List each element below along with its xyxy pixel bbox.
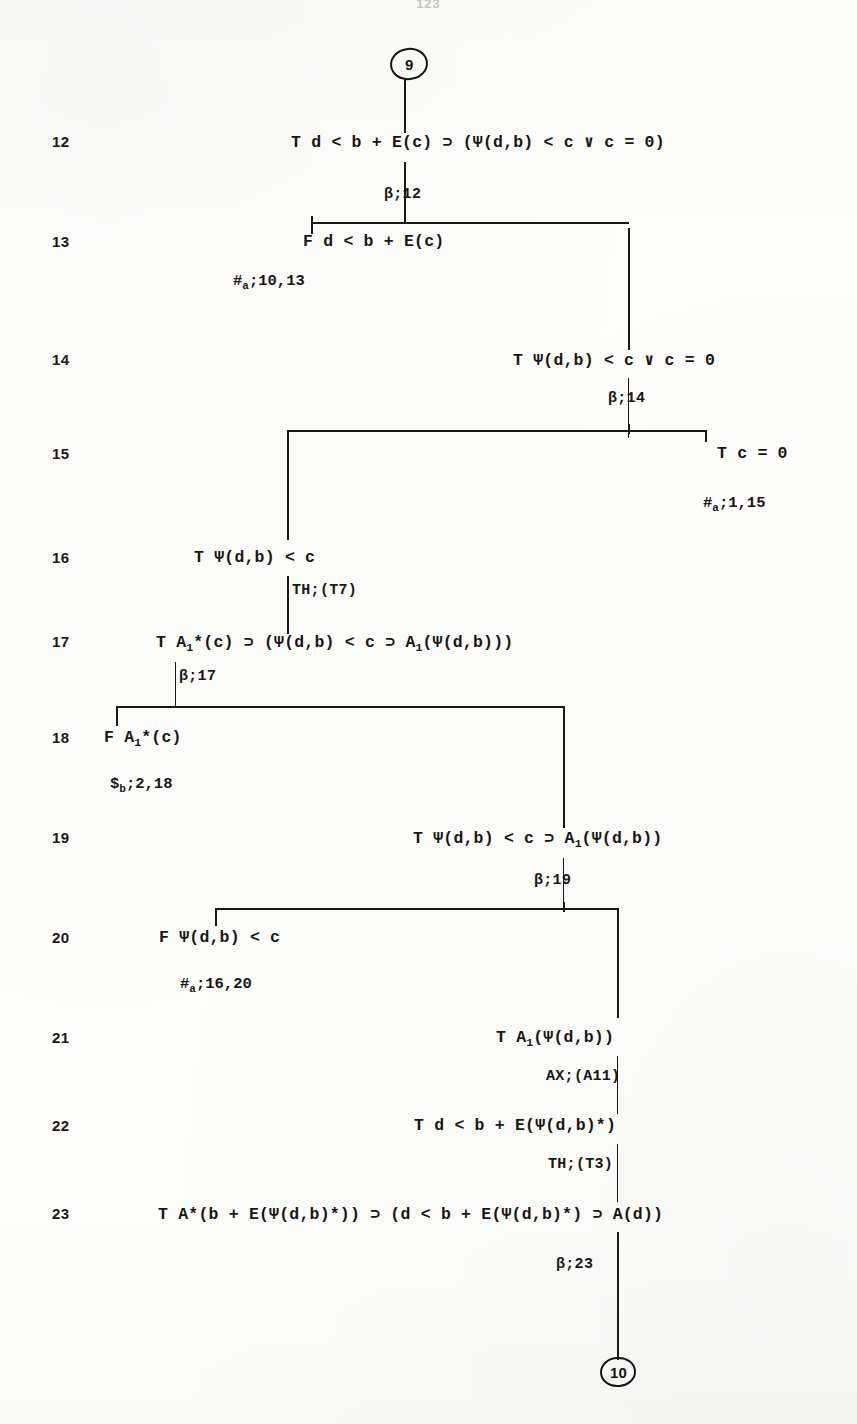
formula-line-15: T c = 0: [717, 444, 788, 463]
tree-node-10-label: 10: [610, 1364, 627, 1381]
closure-sub-13: a: [242, 280, 249, 292]
closure-refs-15: ;1,15: [719, 494, 766, 512]
line-number-16: 16: [52, 549, 70, 566]
formula-line-23: T A*(b + E(Ψ(d,b)*)) ⊃ (d < b + E(Ψ(d,b)…: [158, 1204, 663, 1224]
closure-refs-20: ;16,20: [196, 975, 252, 993]
line-number-18: 18: [52, 729, 70, 746]
branch-right-18-to-19: [563, 706, 565, 828]
formula-line-19-sub: 1: [575, 837, 582, 850]
line-number-13: 13: [52, 233, 70, 250]
closure-refs-18: ;2,18: [126, 775, 173, 793]
closure-mark-13: #: [233, 272, 242, 290]
justification-beta-19: β;19: [534, 872, 571, 889]
formula-line-17-pre: T A: [156, 633, 186, 652]
branch-bar-line15: [287, 430, 706, 432]
formula-line-20: F Ψ(d,b) < c: [159, 928, 280, 947]
edge-line23-to-node10: [617, 1232, 619, 1360]
manuscript-page: 123 9 12 T d < b + E(c) ⊃ (Ψ(d,b) < c ∨ …: [0, 0, 857, 1424]
branch-left-18: [116, 706, 118, 726]
tree-node-9-label: 9: [405, 56, 413, 73]
formula-line-12: T d < b + E(c) ⊃ (Ψ(d,b) < c ∨ c = 0): [291, 132, 665, 152]
tree-node-10: 10: [599, 1356, 637, 1388]
formula-line-18: F A1*(c): [104, 728, 182, 749]
closure-mark-20: #: [180, 975, 189, 993]
line-number-19: 19: [52, 829, 70, 846]
closure-mark-18: $: [110, 775, 119, 793]
branch-bar-line20: [215, 908, 618, 910]
formula-line-17-tail: (Ψ(d,b))): [422, 633, 513, 652]
formula-line-19-pre: T Ψ(d,b) < c ⊃ A: [413, 829, 575, 848]
closure-mark-15: #: [703, 494, 712, 512]
branch-right-20-to-21: [617, 908, 619, 1018]
branch-left-15-to-16: [287, 430, 289, 540]
branch-tick-mid-20: [563, 902, 565, 912]
formula-line-13: F d < b + E(c): [303, 232, 444, 251]
line-number-23: 23: [52, 1205, 70, 1222]
justification-beta-12: β;12: [384, 186, 421, 203]
justification-beta-14: β;14: [608, 390, 645, 407]
justification-beta-17: β;17: [179, 668, 216, 685]
line-number-12: 12: [52, 133, 70, 150]
closure-sub-18: b: [119, 783, 126, 795]
formula-line-21-pre: T A: [496, 1028, 526, 1047]
edge-line22-to-line23: [617, 1144, 618, 1202]
branch-right-15: [705, 430, 707, 442]
branch-bar-line18: [116, 706, 564, 708]
formula-line-21: T A1(Ψ(d,b)): [496, 1028, 614, 1049]
line-number-14: 14: [52, 351, 70, 368]
branch-bar-line13: [311, 222, 629, 224]
tree-node-9: 9: [388, 46, 430, 82]
closure-marker-18: $b;2,18: [110, 775, 172, 795]
formula-line-22: T d < b + E(Ψ(d,b)*): [414, 1116, 616, 1135]
line-number-21: 21: [52, 1029, 70, 1046]
formula-line-16: T Ψ(d,b) < c: [194, 548, 315, 567]
edge-line21-to-line22: [617, 1056, 618, 1114]
closure-sub-15: a: [712, 502, 719, 514]
edge-line16-to-line17: [287, 576, 289, 634]
justification-th-t7: TH;(T7): [292, 582, 357, 599]
page-number: 123: [0, 0, 857, 11]
formula-line-21-post: (Ψ(d,b)): [533, 1028, 614, 1047]
line-number-22: 22: [52, 1117, 70, 1134]
branch-tick-mid-15: [628, 424, 630, 434]
closure-marker-15: #a;1,15: [703, 494, 765, 514]
closure-refs-13: ;10,13: [249, 272, 305, 290]
line-number-17: 17: [52, 633, 70, 650]
justification-th-t3: TH;(T3): [548, 1156, 613, 1173]
justification-beta-23: β;23: [556, 1256, 593, 1273]
formula-line-17: T A1*(c) ⊃ (Ψ(d,b) < c ⊃ A1(Ψ(d,b))): [156, 632, 513, 654]
formula-line-18-post: *(c): [141, 728, 181, 747]
formula-line-19-post: (Ψ(d,b)): [582, 829, 663, 848]
formula-line-19: T Ψ(d,b) < c ⊃ A1(Ψ(d,b)): [413, 828, 662, 850]
formula-line-14: T Ψ(d,b) < c ∨ c = 0: [513, 350, 715, 370]
branch-right-13-to-14: [628, 228, 630, 350]
line-number-15: 15: [52, 445, 70, 462]
edge-node9-to-line12: [404, 78, 406, 133]
branch-left-20: [215, 908, 217, 926]
formula-line-18-pre: F A: [104, 728, 134, 747]
closure-marker-20: #a;16,20: [180, 975, 252, 995]
closure-sub-20: a: [189, 983, 196, 995]
formula-line-17-post: *(c) ⊃ (Ψ(d,b) < c ⊃ A: [193, 633, 415, 652]
closure-marker-13: #a;10,13: [233, 272, 305, 292]
justification-ax-a11: AX;(A11): [546, 1068, 620, 1085]
line-number-20: 20: [52, 929, 70, 946]
edge-line17-to-branch18: [175, 662, 176, 708]
